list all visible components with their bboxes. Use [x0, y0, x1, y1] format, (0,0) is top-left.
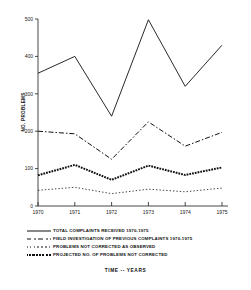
x-tick-label: 1975	[216, 209, 227, 215]
plot-svg: 0100200300400500 19701971197219731974197…	[0, 0, 251, 220]
legend-label-problems-observed: PROBLEMS NOT CORRECTED AS OBSERVED	[53, 243, 155, 251]
line-chart: 0100200300400500 19701971197219731974197…	[0, 0, 251, 290]
legend-swatch-solid-icon	[27, 227, 53, 235]
x-tick-label: 1971	[69, 209, 80, 215]
x-axis-ticks: 197019711972197319741975	[32, 202, 227, 215]
legend-item-projected-problems: PROJECTED NO. OF PROBLEMS NOT CORRECTED	[27, 251, 242, 259]
series-line-3	[38, 187, 222, 193]
y-tick-label: 100	[25, 165, 34, 171]
legend-swatch-dashdot-icon	[27, 235, 53, 243]
plot-area: 0100200300400500 19701971197219731974197…	[0, 0, 251, 220]
series-group	[38, 20, 222, 194]
legend-item-total-complaints: TOTAL COMPLAINTS RECEIVED 1970-1975	[27, 227, 242, 235]
x-tick-label: 1970	[32, 209, 43, 215]
legend-label-projected-problems: PROJECTED NO. OF PROBLEMS NOT CORRECTED	[53, 251, 168, 259]
y-axis-ticks: 0100200300400500	[25, 16, 38, 209]
series-line-4	[38, 165, 222, 180]
x-axis-title: TIME -- YEARS	[0, 268, 251, 273]
y-tick-label: 500	[25, 16, 34, 22]
legend-swatch-beaded-icon	[27, 251, 53, 259]
y-tick-label: 400	[25, 53, 34, 59]
series-line-1	[38, 20, 222, 116]
x-tick-label: 1973	[143, 209, 154, 215]
x-tick-label: 1974	[180, 209, 191, 215]
legend: TOTAL COMPLAINTS RECEIVED 1970-1975 FIEL…	[27, 227, 242, 259]
series-line-2	[38, 122, 222, 159]
legend-label-field-investigation: FIELD INVESTIGATION OF PREVIOUS COMPLAIN…	[53, 235, 192, 243]
legend-item-problems-observed: PROBLEMS NOT CORRECTED AS OBSERVED	[27, 243, 242, 251]
legend-item-field-investigation: FIELD INVESTIGATION OF PREVIOUS COMPLAIN…	[27, 235, 242, 243]
legend-swatch-dotted-icon	[27, 243, 53, 251]
y-axis-title: NO. PROBLEMS	[21, 92, 26, 131]
x-tick-label: 1972	[106, 209, 117, 215]
legend-label-total-complaints: TOTAL COMPLAINTS RECEIVED 1970-1975	[53, 227, 149, 235]
